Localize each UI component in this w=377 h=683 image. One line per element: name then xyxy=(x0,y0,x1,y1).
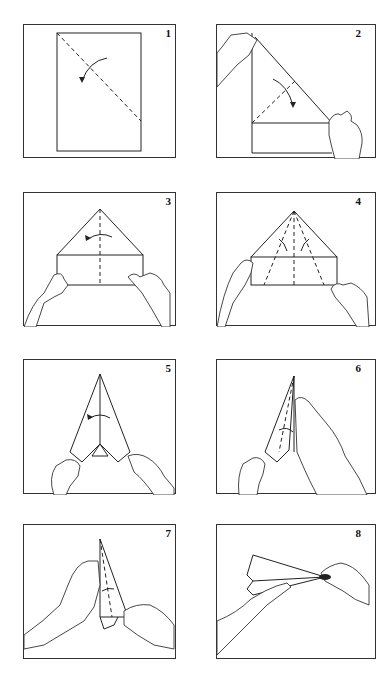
step-8-illustration xyxy=(217,525,377,660)
step-8-panel: 8 xyxy=(216,524,376,659)
hand-icon xyxy=(24,561,100,649)
hand-icon xyxy=(24,274,68,327)
step-1-panel: 1 xyxy=(23,24,176,158)
fold-arrow-icon xyxy=(290,102,296,108)
hand-icon xyxy=(128,454,174,495)
step-6-panel: 6 xyxy=(216,359,376,494)
hand-icon xyxy=(295,397,367,495)
hand-icon xyxy=(329,111,362,159)
step-2-panel: 2 xyxy=(216,24,376,158)
hand-icon xyxy=(239,458,266,495)
fold-arrow-icon xyxy=(85,235,91,241)
step-3-illustration xyxy=(24,193,177,327)
hand-icon xyxy=(331,283,369,327)
step-1-illustration xyxy=(24,25,177,159)
step-6-illustration xyxy=(217,360,377,495)
step-4-illustration xyxy=(217,193,377,327)
step-5-illustration xyxy=(24,360,177,495)
hand-icon xyxy=(217,33,257,87)
step-7-panel: 7 xyxy=(23,524,176,659)
hand-icon xyxy=(217,583,291,655)
step-7-illustration xyxy=(24,525,177,660)
hand-icon xyxy=(124,605,174,649)
hand-icon xyxy=(321,563,369,605)
fold-arrow-icon xyxy=(87,414,93,420)
fold-arrow-icon xyxy=(79,77,85,83)
step-2-illustration xyxy=(217,25,377,159)
step-3-panel: 3 xyxy=(23,192,176,326)
hand-icon xyxy=(217,260,253,327)
step-5-panel: 5 xyxy=(23,359,176,494)
hand-icon xyxy=(51,460,80,495)
step-4-panel: 4 xyxy=(216,192,376,326)
hand-icon xyxy=(128,273,170,327)
